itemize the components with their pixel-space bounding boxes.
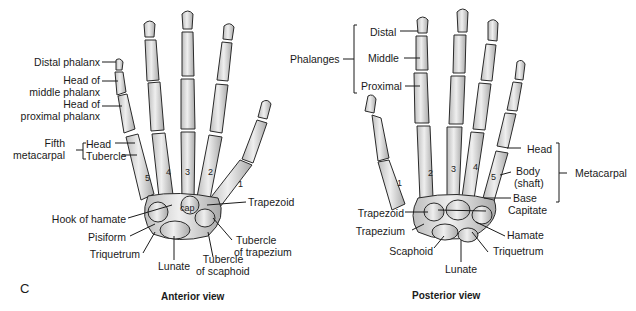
svg-text:4: 4 (166, 167, 171, 177)
svg-text:4: 4 (473, 162, 478, 172)
caption-anterior-view: Anterior view (161, 291, 224, 302)
label-lunate-posterior: Lunate (445, 263, 477, 275)
label-distal: Distal (370, 26, 396, 38)
svg-text:cap: cap (180, 203, 195, 213)
label-trapezium: Trapezium (356, 225, 405, 237)
label-fifth-metacarpal-line2: metacarpal (13, 149, 65, 161)
label-metacarpal-head: Head (527, 143, 552, 155)
label-tubercle-of-scaphoid-line2: of scaphoid (196, 265, 250, 277)
svg-text:5: 5 (491, 172, 496, 182)
label-pisiform: Pisiform (88, 231, 126, 243)
label-metacarpal-base: Base (513, 192, 537, 204)
label-middle: Middle (368, 52, 399, 64)
svg-text:1: 1 (397, 178, 402, 188)
svg-text:2: 2 (208, 167, 213, 177)
svg-text:3: 3 (451, 164, 456, 174)
label-fifth-metacarpal-line1: Fifth (45, 137, 65, 149)
label-hamate: Hamate (507, 229, 544, 241)
label-distal-phalanx: Distal phalanx (34, 56, 100, 68)
svg-text:3: 3 (185, 167, 190, 177)
label-tubercle-of-trapezium-line2: of trapezium (234, 246, 292, 258)
label-phalanges: Phalanges (290, 53, 340, 65)
label-triquetrum: Triquetrum (90, 248, 140, 260)
label-capitate: Capitate (508, 204, 547, 216)
panel-letter: C (20, 281, 29, 296)
caption-posterior-view: Posterior view (412, 290, 480, 301)
anterior-metacarpal-number: 5 (145, 173, 150, 183)
label-tubercle-of-trapezium-line1: Tubercle (236, 234, 276, 246)
label-metacarpal-body-line1: Body (516, 165, 540, 177)
label-lunate: Lunate (158, 260, 190, 272)
label-head-middle-phalanx-line2: middle phalanx (29, 86, 100, 98)
label-fifth-metacarpal-tubercle: Tubercle (86, 150, 126, 162)
label-head-proximal-phalanx-line1: Head of (63, 98, 100, 110)
label-triquetrum-posterior: Triquetrum (493, 245, 543, 257)
label-proximal: Proximal (361, 80, 402, 92)
label-metacarpal: Metacarpal (575, 167, 627, 179)
label-head-proximal-phalanx-line2: proximal phalanx (21, 110, 100, 122)
svg-text:2: 2 (428, 168, 433, 178)
label-fifth-metacarpal-head: Head (86, 138, 111, 150)
label-trapezoid-anterior: Trapezoid (248, 196, 294, 208)
svg-text:1: 1 (238, 179, 243, 189)
label-metacarpal-body-line2: (shaft) (514, 177, 544, 189)
label-head-middle-phalanx-line1: Head of (63, 74, 100, 86)
label-scaphoid: Scaphoid (389, 245, 433, 257)
label-hook-of-hamate: Hook of hamate (52, 213, 126, 225)
label-trapezoid-posterior: Trapezoid (358, 207, 404, 219)
